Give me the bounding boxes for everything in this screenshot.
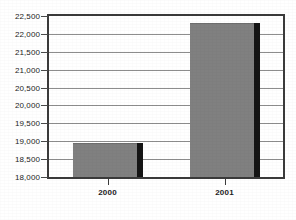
y-axis-tick-mark: [41, 16, 48, 17]
y-axis-tick-labels: 18,00018,50019,00019,50020,00020,50021,0…: [4, 0, 40, 220]
y-axis-tick-label: 20,000: [4, 101, 40, 110]
y-axis-tick-mark: [41, 34, 48, 35]
x-axis-tick-mark: [225, 179, 226, 185]
y-axis-tick-mark: [41, 177, 48, 178]
x-axis-tick-label: 2001: [215, 188, 234, 197]
y-axis-tick-label: 18,000: [4, 173, 40, 182]
y-axis-tick-mark: [41, 141, 48, 142]
y-axis-tick-mark: [41, 52, 48, 53]
y-axis-tick-mark: [41, 70, 48, 71]
y-axis-tick-label: 21,500: [4, 47, 40, 56]
bar-shadow: [254, 23, 260, 177]
y-axis-tick-label: 22,500: [4, 12, 40, 21]
bar-shadow: [137, 143, 143, 177]
y-axis-tick-label: 20,500: [4, 83, 40, 92]
y-axis-tick-mark: [41, 105, 48, 106]
x-axis-tick-mark: [108, 179, 109, 185]
plot-area: [47, 14, 285, 179]
y-axis-tick-mark: [41, 159, 48, 160]
bar-chart: 18,00018,50019,00019,50020,00020,50021,0…: [0, 0, 296, 220]
y-axis-tick-mark: [41, 123, 48, 124]
y-axis-tick-label: 19,000: [4, 137, 40, 146]
bar[interactable]: [73, 143, 143, 177]
bar-fill: [73, 143, 137, 177]
y-axis-tick-label: 22,000: [4, 29, 40, 38]
bar-fill: [190, 23, 254, 177]
y-axis-tick-mark: [41, 88, 48, 89]
y-axis-tick-label: 19,500: [4, 119, 40, 128]
y-axis-tick-label: 21,000: [4, 65, 40, 74]
x-axis-tick-label: 2000: [98, 188, 117, 197]
y-axis-tick-label: 18,500: [4, 155, 40, 164]
bar[interactable]: [190, 23, 260, 177]
